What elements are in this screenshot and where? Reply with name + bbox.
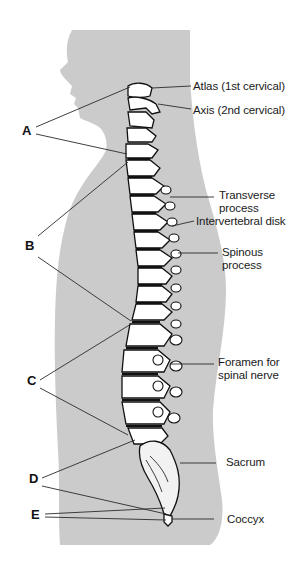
atlas-vertebra [128, 83, 152, 97]
label-foramen: Foramen for spinal nerve [218, 356, 280, 382]
label-axis-text: Axis (2nd cervical) [193, 104, 285, 116]
label-spinous-line1: Spinous [222, 246, 263, 259]
label-foramen-line1: Foramen for [218, 356, 280, 369]
label-foramen-line2: spinal nerve [218, 369, 280, 382]
region-letter-c: C [27, 374, 36, 388]
label-transverse-process: Transverse process [219, 189, 275, 215]
label-axis: Axis (2nd cervical) [193, 104, 285, 117]
label-intervertebral-disk: Intervertebral disk [196, 215, 286, 228]
region-letter-d: D [29, 472, 38, 486]
label-spinous-line2: process [222, 259, 263, 272]
region-letter-e: E [31, 508, 40, 522]
region-letter-b: B [25, 239, 34, 253]
label-transverse-line1: Transverse [219, 189, 275, 202]
label-sacrum: Sacrum [226, 456, 265, 469]
region-letter-a: A [22, 124, 31, 138]
spine-diagram: Atlas (1st cervical) Axis (2nd cervical)… [0, 0, 302, 562]
label-intervertebral-text: Intervertebral disk [196, 215, 286, 227]
label-transverse-line2: process [219, 202, 275, 215]
label-coccyx-text: Coccyx [227, 513, 264, 525]
label-atlas-text: Atlas (1st cervical) [193, 80, 285, 92]
label-sacrum-text: Sacrum [226, 456, 265, 468]
label-spinous-process: Spinous process [222, 246, 263, 272]
label-atlas: Atlas (1st cervical) [193, 80, 285, 93]
label-coccyx: Coccyx [227, 513, 264, 526]
